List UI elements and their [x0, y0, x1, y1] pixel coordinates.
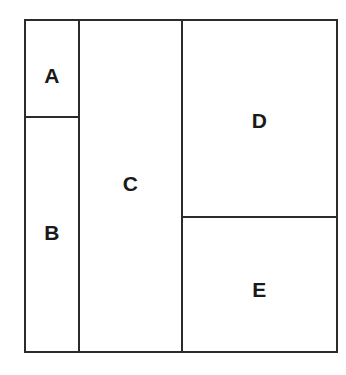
outer-rectangle: A B C D E: [24, 19, 338, 353]
region-b[interactable]: B: [26, 118, 80, 351]
region-c-label: C: [80, 173, 181, 194]
region-e-label: E: [183, 279, 336, 300]
region-b-label: B: [26, 222, 78, 243]
diagram-canvas: A B C D E: [0, 0, 346, 375]
region-d-label: D: [183, 110, 336, 131]
region-a-label: A: [26, 65, 78, 86]
region-e[interactable]: E: [183, 218, 336, 351]
region-c[interactable]: C: [80, 21, 183, 351]
region-d[interactable]: D: [183, 21, 336, 218]
region-a[interactable]: A: [26, 21, 80, 118]
